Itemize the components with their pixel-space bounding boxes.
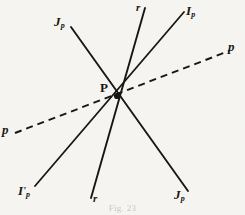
label-point-p-base: P [100, 80, 108, 95]
label-p-left: p [2, 123, 9, 136]
intersection-point-p [114, 93, 120, 99]
label-jp-bottom-sub: p [181, 194, 185, 203]
label-jp-top-sub: p [61, 21, 65, 30]
figure-caption: Fig. 23 [0, 203, 245, 213]
label-r-top-base: r [136, 1, 140, 13]
label-ip-top: Ip [186, 4, 195, 17]
label-ip-prime-bottom-sub: p [26, 190, 30, 199]
label-p-right-base: p [228, 39, 235, 54]
label-ip-prime-bottom: I'p [18, 184, 30, 197]
label-jp-bottom: Jp [174, 188, 185, 201]
label-r-top: r [136, 2, 140, 13]
label-p-right: p [228, 40, 235, 53]
label-p-left-base: p [2, 122, 9, 137]
label-point-p: P [100, 81, 108, 94]
label-jp-top-base: J [54, 14, 61, 29]
figure-container: Jp r Ip p p I'p r Jp P Fig. 23 [0, 0, 245, 215]
label-jp-bottom-base: J [174, 187, 181, 202]
diagram-canvas [0, 0, 245, 215]
label-ip-top-sub: p [191, 10, 195, 19]
label-jp-top: Jp [54, 15, 65, 28]
